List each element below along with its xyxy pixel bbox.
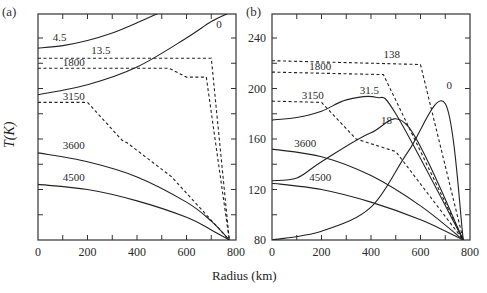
plot-frame	[38, 14, 236, 240]
series-line-4500	[272, 183, 463, 240]
series-label: 3150	[302, 89, 325, 101]
x-tick-label: 400	[128, 245, 146, 259]
series-line-3600	[38, 153, 229, 240]
series-label: 31.5	[360, 84, 380, 96]
series-label: 0	[446, 79, 452, 91]
series-line-3150	[272, 101, 463, 240]
series-label: 3150	[63, 90, 86, 102]
series-label: 3600	[63, 139, 86, 151]
x-tick-label: 0	[269, 245, 275, 259]
series-label: 3600	[294, 137, 317, 149]
x-tick-label: 800	[227, 245, 245, 259]
series-label: 1800	[309, 60, 332, 72]
series-line-0	[38, 13, 229, 95]
series-line-1800	[272, 72, 463, 240]
series-label: 4500	[63, 171, 86, 183]
series-label: 18	[381, 114, 393, 126]
series-line-31-5	[272, 96, 463, 240]
figure: 020040060080004.513.51800315036004500020…	[0, 0, 487, 293]
y-tick-label: 160	[248, 132, 266, 146]
series-label: 13.5	[91, 44, 111, 56]
y-tick-label: 120	[248, 183, 266, 197]
y-tick-label: 200	[248, 82, 266, 96]
y-tick-label: 240	[248, 31, 266, 45]
y-tick-label: 80	[254, 233, 266, 247]
series-label: 138	[383, 48, 400, 60]
x-tick-label: 200	[313, 245, 331, 259]
x-tick-label: 200	[79, 245, 97, 259]
series-label: 0	[216, 18, 222, 30]
x-tick-label: 600	[412, 245, 430, 259]
series-label: 1800	[63, 56, 86, 68]
x-tick-label: 0	[35, 245, 41, 259]
x-tick-label: 600	[178, 245, 196, 259]
series-label: 4500	[309, 171, 332, 183]
series-label: 4.5	[53, 31, 67, 43]
x-tick-label: 800	[461, 245, 479, 259]
panel-a: 020040060080004.513.51800315036004500	[35, 13, 245, 259]
series-line-0	[272, 101, 463, 240]
x-tick-label: 400	[362, 245, 380, 259]
plot-frame	[272, 14, 470, 240]
panel-b: 02004006008008012016020024001831.5138180…	[248, 14, 479, 259]
